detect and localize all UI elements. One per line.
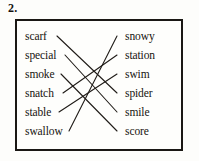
connection-line-snatch-station <box>63 55 117 93</box>
right-word-station[interactable]: station <box>125 50 155 62</box>
right-word-spider[interactable]: spider <box>125 88 153 100</box>
question-number: 2. <box>8 1 17 16</box>
left-word-stable[interactable]: stable <box>25 107 51 119</box>
connection-line-scarf-spider <box>57 36 117 93</box>
worksheet-page: 2. scarf special smoke snatch stable swa… <box>0 0 199 161</box>
connection-line-swallow-snowy <box>69 36 117 131</box>
matching-exercise-box: scarf special smoke snatch stable swallo… <box>15 19 183 151</box>
left-word-smoke[interactable]: smoke <box>25 69 55 81</box>
left-word-snatch[interactable]: snatch <box>25 88 54 100</box>
right-word-score[interactable]: score <box>125 126 149 138</box>
left-word-scarf[interactable]: scarf <box>25 31 47 43</box>
right-word-snowy[interactable]: snowy <box>125 31 155 43</box>
right-word-swim[interactable]: swim <box>125 69 150 81</box>
right-word-smile[interactable]: smile <box>125 107 149 119</box>
connection-line-stable-swim <box>59 74 117 112</box>
left-word-special[interactable]: special <box>25 50 56 62</box>
connection-line-smoke-score <box>61 74 117 131</box>
left-word-swallow[interactable]: swallow <box>25 126 63 138</box>
connection-line-special-smile <box>65 55 117 112</box>
